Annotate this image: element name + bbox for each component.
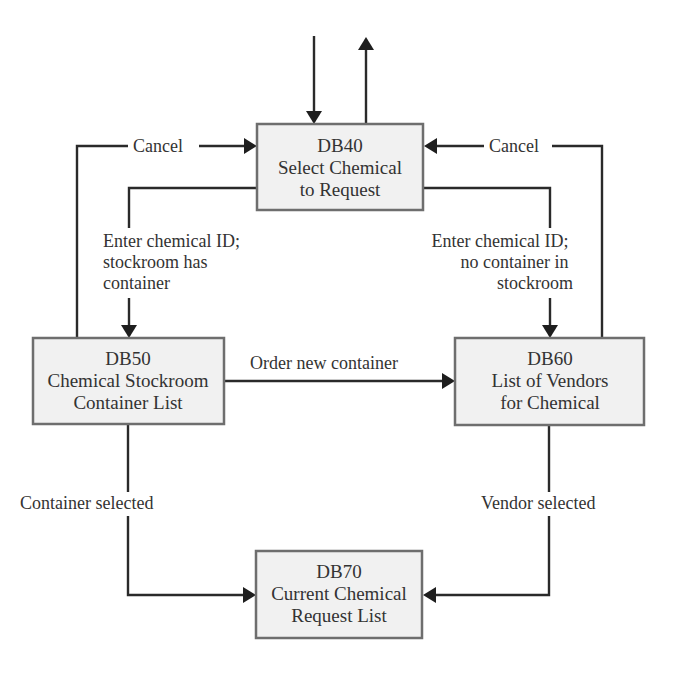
to-db50-label-line2: stockroom has xyxy=(103,252,207,272)
to-db60-label-line1: Enter chemical ID; xyxy=(432,231,569,251)
node-db70: DB70 Current Chemical Request List xyxy=(256,551,422,638)
to-db50-label-line1: Enter chemical ID; xyxy=(103,231,240,251)
entry-arrow xyxy=(306,36,322,124)
node-db70-line1: Current Chemical xyxy=(271,583,407,604)
order-new-label: Order new container xyxy=(250,353,398,373)
to-db60-label-line3: stockroom xyxy=(497,273,573,293)
container-selected-label: Container selected xyxy=(20,493,153,513)
exit-arrow xyxy=(358,37,374,124)
to-db50-label: Enter chemical ID; stockroom has contain… xyxy=(103,231,244,293)
node-db70-id: DB70 xyxy=(316,561,361,582)
container-selected-connector xyxy=(128,424,256,603)
node-db50-line1: Chemical Stockroom xyxy=(48,370,209,391)
vendor-selected-label: Vendor selected xyxy=(481,493,595,513)
node-db40: DB40 Select Chemical to Request xyxy=(257,124,423,210)
node-db60: DB60 List of Vendors for Chemical xyxy=(455,338,644,425)
node-db50-id: DB50 xyxy=(105,348,150,369)
to-db60-label: Enter chemical ID; no container in stock… xyxy=(432,231,573,293)
to-db60-label-line2: no container in xyxy=(461,252,569,272)
flow-diagram: Cancel Cancel Enter chemical ID; stockro… xyxy=(0,0,676,677)
order-new-connector xyxy=(224,373,455,389)
cancel-right-label: Cancel xyxy=(489,136,539,156)
node-db50: DB50 Chemical Stockroom Container List xyxy=(33,338,224,424)
vendor-selected-connector xyxy=(423,425,549,603)
node-db70-line2: Request List xyxy=(291,605,387,626)
to-db50-label-line3: container xyxy=(103,273,170,293)
node-db60-id: DB60 xyxy=(527,348,572,369)
node-db40-id: DB40 xyxy=(317,135,362,156)
node-db40-line2: to Request xyxy=(300,179,381,200)
node-db60-line2: for Chemical xyxy=(500,392,600,413)
node-db60-line1: List of Vendors xyxy=(492,370,609,391)
node-db40-line1: Select Chemical xyxy=(278,157,402,178)
cancel-left-label: Cancel xyxy=(133,136,183,156)
node-db50-line2: Container List xyxy=(73,392,183,413)
